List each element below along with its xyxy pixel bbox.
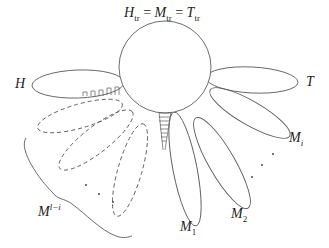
title-equation: Htr = Mtr = Ttr: [124, 6, 200, 23]
ellipsis-dots-left: [85, 184, 114, 203]
title-h: H: [124, 5, 134, 20]
title-eq2: =: [172, 5, 187, 20]
title-t-sub: tr: [194, 13, 200, 23]
petal-H: [32, 68, 125, 99]
dashed-petal-1: [34, 92, 125, 139]
region-boundary: [24, 138, 132, 238]
label-T: T: [306, 75, 314, 89]
petal-M1: [162, 110, 208, 228]
ellipsis-dots-right: [251, 153, 274, 178]
title-eq1: =: [140, 5, 155, 20]
label-H: H: [15, 77, 25, 91]
dashed-petal-2: [52, 101, 141, 178]
petal-T: [205, 65, 298, 96]
label-M1-sub: 1: [192, 227, 197, 237]
label-M1-base: M: [180, 219, 192, 234]
label-Mi: Mi: [289, 131, 303, 148]
label-Mi-sub: i: [301, 138, 304, 148]
dashed-petal-3: [105, 121, 155, 220]
dashed-petals: [34, 92, 154, 219]
label-M2-sub: 2: [243, 214, 248, 224]
label-M2-base: M: [231, 206, 243, 221]
label-Mli-sup: l−i: [50, 202, 61, 212]
label-Mli: Ml−i: [38, 203, 61, 219]
label-Mi-base: M: [289, 130, 301, 145]
label-M2: M2: [231, 207, 247, 224]
central-circle: [119, 21, 211, 113]
petal-Mi: [204, 80, 296, 147]
label-M1: M1: [180, 220, 196, 237]
title-m: M: [155, 5, 167, 20]
label-Mli-base: M: [38, 204, 50, 219]
